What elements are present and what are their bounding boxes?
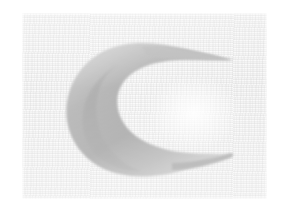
scanned-photo-region <box>22 13 267 199</box>
page-canvas <box>0 0 289 218</box>
crescent-moon-artwork <box>22 13 267 199</box>
